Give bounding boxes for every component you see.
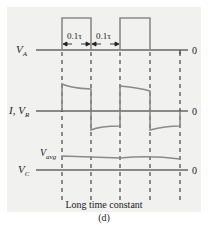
vavg-label: Vavg	[40, 147, 57, 161]
va-zero-label: 0	[192, 45, 197, 56]
vavg-waveform	[62, 156, 180, 159]
pulse-width-label: 0.1τ	[67, 31, 82, 41]
time-markers	[62, 52, 180, 200]
vc-zero-label: 0	[192, 165, 197, 176]
ir-trace	[36, 84, 188, 130]
va-trace	[36, 18, 188, 54]
vc-label: VC	[18, 163, 30, 178]
ir-label: I, VR	[8, 104, 30, 119]
ir-zero-label: 0	[192, 106, 197, 117]
va-label: VA	[16, 43, 28, 58]
gap-width-label: 0.1τ	[96, 31, 111, 41]
waveform-diagram: VA 0 I, VR 0 VC 0 Vavg 0.1τ 0.1τ Long ti…	[0, 0, 208, 228]
vc-trace	[36, 156, 188, 170]
subtitle: Long time constant	[65, 199, 142, 210]
figure-caption: (d)	[0, 212, 208, 223]
ir-waveform	[62, 84, 180, 130]
